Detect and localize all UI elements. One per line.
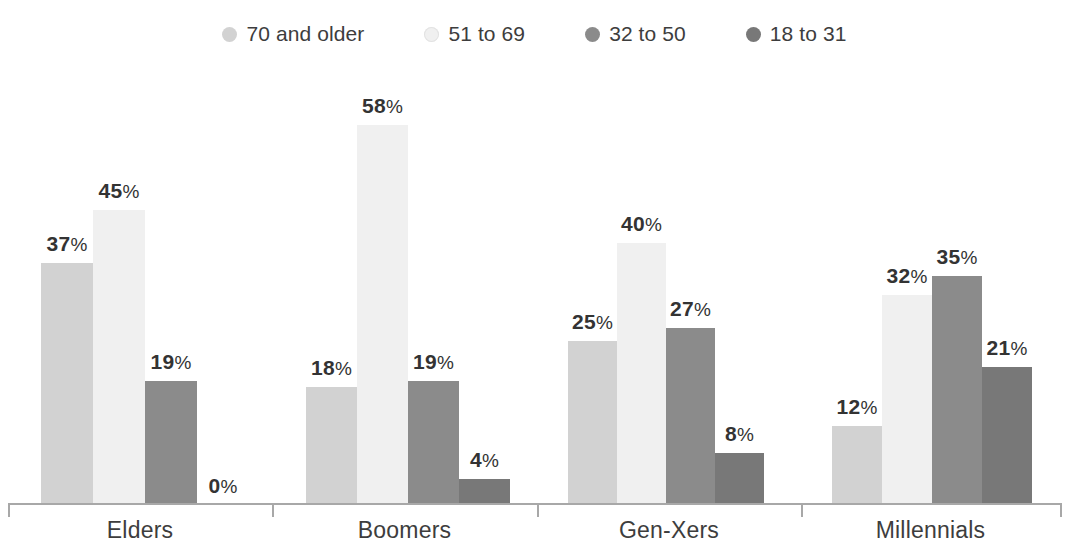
legend-item-70-and-older[interactable]: 70 and older <box>222 22 364 46</box>
bar[interactable]: 58% <box>357 60 408 505</box>
legend-dot-51-to-69 <box>424 27 439 42</box>
chart-legend: 70 and older 51 to 69 32 to 50 18 to 31 <box>0 12 1069 56</box>
bar-rect <box>568 341 617 505</box>
category-label-gen-xers: Gen-Xers <box>537 517 801 544</box>
bar[interactable]: 19% <box>408 60 459 505</box>
bar[interactable]: 37% <box>41 60 93 505</box>
bar[interactable]: 45% <box>93 60 145 505</box>
axis-tick-4 <box>1060 503 1062 517</box>
legend-item-18-to-31[interactable]: 18 to 31 <box>746 22 847 46</box>
category-label-boomers: Boomers <box>272 517 537 544</box>
bar-rect <box>932 276 982 505</box>
axis-tick-2 <box>537 503 539 517</box>
legend-label-70-and-older: 70 and older <box>246 22 364 46</box>
legend-label-51-to-69: 51 to 69 <box>448 22 525 46</box>
legend-label-18-to-31: 18 to 31 <box>770 22 847 46</box>
x-axis-category-labels: Elders Boomers Gen-Xers Millennials <box>0 517 1069 558</box>
bar-rect <box>882 295 932 505</box>
legend-dot-70-and-older <box>222 27 237 42</box>
axis-tick-1 <box>272 503 274 517</box>
plot-area: 37%45%19%0%18%58%19%4%25%40%27%8%12%32%3… <box>0 60 1069 505</box>
category-label-millennials: Millennials <box>801 517 1060 544</box>
bar-value-label: 8% <box>680 422 800 446</box>
bar[interactable]: 0% <box>197 60 249 505</box>
bar-rect <box>459 479 510 505</box>
bar-rect <box>832 426 882 505</box>
category-label-elders: Elders <box>8 517 272 544</box>
legend-item-51-to-69[interactable]: 51 to 69 <box>424 22 525 46</box>
bar[interactable]: 25% <box>568 60 617 505</box>
legend-label-32-to-50: 32 to 50 <box>609 22 686 46</box>
bar[interactable]: 35% <box>932 60 982 505</box>
bar[interactable]: 19% <box>145 60 197 505</box>
bar-rect <box>357 125 408 505</box>
bar-rect <box>306 387 357 505</box>
bar-chart: 70 and older 51 to 69 32 to 50 18 to 31 … <box>0 0 1069 558</box>
axis-tick-3 <box>801 503 803 517</box>
legend-item-32-to-50[interactable]: 32 to 50 <box>585 22 686 46</box>
bar-rect <box>715 453 764 505</box>
bar[interactable]: 4% <box>459 60 510 505</box>
axis-tick-0 <box>8 503 10 517</box>
bar-rect <box>617 243 666 505</box>
bar-value-label: 21% <box>947 336 1067 360</box>
x-axis <box>0 503 1069 507</box>
axis-baseline <box>8 503 1062 505</box>
bar-rect <box>666 328 715 505</box>
legend-dot-18-to-31 <box>746 27 761 42</box>
legend-dot-32-to-50 <box>585 27 600 42</box>
bar[interactable]: 8% <box>715 60 764 505</box>
bar-rect <box>982 367 1032 505</box>
bar-rect <box>408 381 459 505</box>
bar[interactable]: 18% <box>306 60 357 505</box>
bar[interactable]: 21% <box>982 60 1032 505</box>
bar[interactable]: 40% <box>617 60 666 505</box>
bar-value-label: 4% <box>425 448 545 472</box>
bar-rect <box>41 263 93 505</box>
bar[interactable]: 32% <box>882 60 932 505</box>
bar-value-label: 0% <box>163 474 283 498</box>
